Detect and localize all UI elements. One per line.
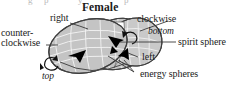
label-left: left (142, 52, 155, 62)
label-right: right (50, 13, 68, 23)
label-top: top (42, 72, 54, 82)
label-clockwise: clockwise (137, 14, 176, 24)
label-bottom: bottom (148, 27, 174, 37)
label-counter-clockwise-line2: clockwise (1, 38, 40, 48)
figure-title: Female (82, 2, 118, 14)
figure-container: g p y p (0, 0, 244, 88)
label-energy-spheres: energy spheres (140, 69, 198, 79)
label-spirit-sphere: spirit sphere (178, 37, 226, 47)
